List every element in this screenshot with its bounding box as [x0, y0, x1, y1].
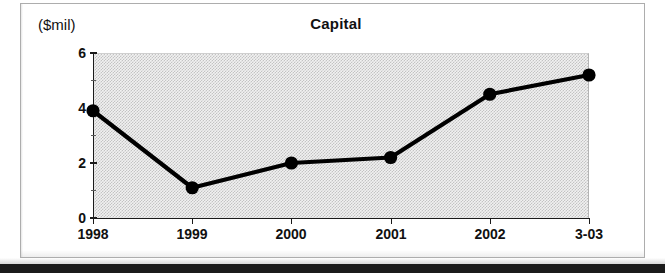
y-minor-tick-3 — [91, 135, 96, 136]
chart-screenshot: ($mil) Capital 6 4 2 0 1998 1999 2000 2 — [0, 0, 665, 273]
y-axis-line — [93, 53, 94, 219]
y-tick-label-2: 2 — [62, 155, 86, 171]
figure-frame: ($mil) Capital 6 4 2 0 1998 1999 2000 2 — [20, 3, 645, 258]
y-tick-mark-6 — [90, 52, 97, 54]
x-tick-label-2002: 2002 — [450, 226, 530, 242]
x-tick-mark-2002 — [490, 218, 491, 224]
y-tick-label-6: 6 — [62, 45, 86, 61]
x-tick-label-1999: 1999 — [152, 226, 232, 242]
y-tick-mark-4 — [90, 107, 97, 109]
x-axis-line — [93, 218, 590, 219]
x-tick-mark-1998 — [93, 218, 94, 224]
x-tick-mark-2000 — [291, 218, 292, 224]
x-tick-label-2001: 2001 — [351, 226, 431, 242]
y-tick-mark-2 — [90, 162, 97, 164]
x-tick-mark-3-03 — [589, 218, 590, 224]
x-tick-label-1998: 1998 — [53, 226, 133, 242]
y-minor-tick-5 — [91, 80, 96, 81]
plot-area — [93, 53, 589, 218]
x-tick-mark-1999 — [192, 218, 193, 224]
y-minor-tick-1 — [91, 190, 96, 191]
y-tick-label-4: 4 — [62, 100, 86, 116]
chart-title: Capital — [191, 15, 481, 32]
y-axis-unit-label: ($mil) — [38, 16, 76, 33]
y-tick-label-0: 0 — [62, 210, 86, 226]
x-tick-label-3-03: 3-03 — [549, 226, 629, 242]
x-tick-label-2000: 2000 — [251, 226, 331, 242]
scan-bottom-band — [0, 264, 665, 273]
x-tick-mark-2001 — [391, 218, 392, 224]
